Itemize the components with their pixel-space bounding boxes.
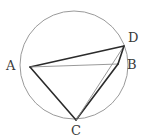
geometry-figure: A B D C <box>0 0 149 140</box>
vertex-label-d: D <box>128 31 138 44</box>
segment-c-b <box>76 64 118 120</box>
segment-c-d <box>76 46 124 120</box>
vertex-label-c: C <box>71 124 81 137</box>
segment-b-d <box>118 46 124 64</box>
segment-a-c <box>30 67 76 120</box>
vertex-label-b: B <box>127 58 137 71</box>
vertex-label-a: A <box>6 59 15 72</box>
